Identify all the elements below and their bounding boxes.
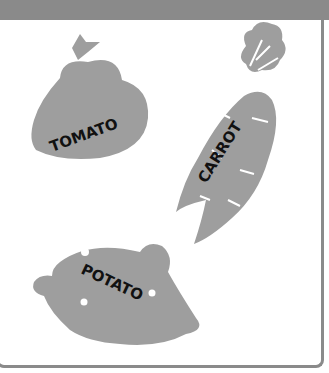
carrot-icon: CARROT: [176, 22, 286, 244]
vegetables-illustration: TOMATO CARROT POTATO: [0, 0, 329, 373]
potato-icon: POTATO: [33, 244, 199, 345]
tomato-icon: TOMATO: [31, 34, 148, 159]
